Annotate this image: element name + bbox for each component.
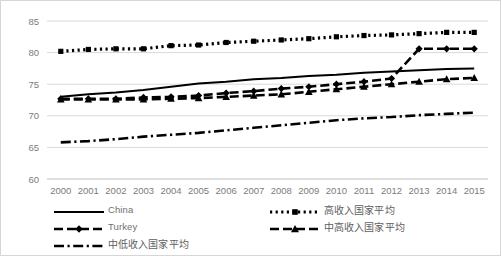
series-3-marker-4 — [168, 43, 173, 48]
series-1-marker-15 — [471, 45, 478, 52]
data-series-group — [57, 30, 478, 143]
y-tick-70: 70 — [28, 110, 39, 121]
x-tick-2009: 2009 — [298, 185, 319, 196]
series-3-marker-12 — [389, 32, 394, 37]
series-3-marker-10 — [334, 34, 339, 39]
series-3-marker-1 — [86, 47, 91, 52]
series-3-marker-11 — [361, 33, 366, 38]
legend-item-solid-line[interactable]: China — [53, 201, 268, 218]
legend-label: 中高收入国家平均 — [324, 219, 405, 234]
series-3-marker-6 — [224, 40, 229, 45]
chart-legend: ChinaTurkey中低收入国家平均 高收入国家平均中高收入国家平均 — [1, 201, 501, 255]
x-tick-2004: 2004 — [160, 185, 181, 196]
series-3-marker-5 — [196, 42, 201, 47]
series-3-marker-14 — [444, 30, 449, 35]
dash-dot-swatch — [53, 238, 105, 250]
legend-item-dash-dot[interactable]: 中低收入国家平均 — [53, 235, 268, 252]
life-expectancy-line-chart: 606570758085 200020012002200320042005200… — [0, 0, 501, 256]
legend-label: 高收入国家平均 — [324, 202, 395, 217]
legend-item-dashed-triangle[interactable]: 中高收入国家平均 — [269, 218, 494, 235]
x-tick-2012: 2012 — [381, 185, 402, 196]
x-tick-2014: 2014 — [436, 185, 457, 196]
x-tick-2013: 2013 — [409, 185, 430, 196]
dotted-square-swatch — [269, 204, 321, 216]
y-tick-60: 60 — [28, 174, 39, 185]
series-line-3 — [61, 32, 474, 51]
series-3-marker-2 — [113, 46, 118, 51]
x-tick-2007: 2007 — [243, 185, 264, 196]
series-line-2 — [61, 113, 474, 143]
x-tick-2008: 2008 — [271, 185, 292, 196]
dashed-diamond-swatch — [53, 221, 105, 233]
y-tick-85: 85 — [28, 16, 39, 27]
x-tick-2006: 2006 — [216, 185, 237, 196]
y-tick-75: 75 — [28, 79, 39, 90]
y-tick-65: 65 — [28, 142, 39, 153]
series-3-marker-7 — [251, 39, 256, 44]
series-3-marker-0 — [58, 49, 63, 54]
plot-area: 606570758085 200020012002200320042005200… — [1, 1, 501, 201]
x-tick-2002: 2002 — [105, 185, 126, 196]
series-line-4 — [61, 78, 474, 99]
series-3-marker-8 — [279, 37, 284, 42]
solid-line-swatch — [53, 204, 105, 216]
series-1 — [57, 45, 478, 102]
x-tick-2005: 2005 — [188, 185, 209, 196]
x-axis-tick-labels: 2000200120022003200420052006200720082009… — [50, 185, 485, 196]
x-tick-2000: 2000 — [50, 185, 71, 196]
series-3-marker-9 — [306, 36, 311, 41]
chart-svg: 606570758085 200020012002200320042005200… — [1, 1, 501, 201]
x-tick-2010: 2010 — [326, 185, 347, 196]
y-axis-tick-labels: 606570758085 — [28, 16, 39, 185]
x-tick-2011: 2011 — [354, 185, 374, 196]
series-1-marker-14 — [443, 45, 450, 52]
y-tick-80: 80 — [28, 47, 39, 58]
legend-column-right: 高收入国家平均中高收入国家平均 — [269, 201, 494, 235]
series-3-marker-13 — [416, 31, 421, 36]
series-2 — [61, 113, 474, 143]
legend-label: China — [108, 204, 133, 215]
x-tick-2015: 2015 — [464, 185, 485, 196]
legend-item-dotted-square[interactable]: 高收入国家平均 — [269, 201, 494, 218]
dashed-triangle-swatch — [269, 221, 321, 233]
legend-label: 中低收入国家平均 — [108, 236, 189, 251]
legend-column-left: ChinaTurkey中低收入国家平均 — [53, 201, 268, 252]
x-tick-2003: 2003 — [133, 185, 154, 196]
x-tick-2001: 2001 — [78, 185, 99, 196]
series-3 — [58, 30, 477, 54]
legend-item-dashed-diamond[interactable]: Turkey — [53, 218, 268, 235]
series-3-marker-3 — [141, 46, 146, 51]
series-3-marker-15 — [472, 30, 477, 35]
legend-label: Turkey — [108, 221, 137, 232]
